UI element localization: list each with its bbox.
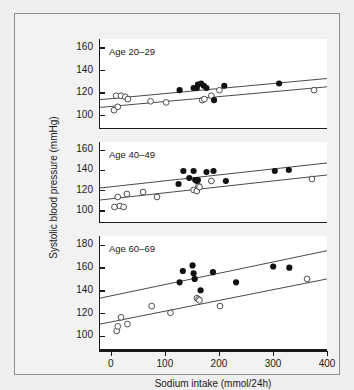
- y-tick-label: 120: [76, 184, 93, 195]
- y-tick-label: 120: [76, 86, 93, 97]
- data-point-open: [124, 191, 130, 197]
- data-point-open: [115, 104, 121, 110]
- data-point-open: [112, 204, 118, 210]
- data-point-open: [118, 314, 124, 320]
- y-tick-label: 140: [76, 64, 93, 75]
- x-tick-label: 200: [211, 358, 228, 369]
- data-point-filled: [177, 87, 183, 93]
- y-tick-label: 140: [76, 163, 93, 174]
- data-point-open: [121, 204, 127, 210]
- x-tick-mark: [219, 351, 220, 356]
- data-point-filled: [191, 270, 197, 276]
- data-point-filled: [233, 279, 239, 285]
- data-point-open: [154, 194, 160, 200]
- data-point-filled: [272, 168, 278, 174]
- data-point-filled: [177, 279, 183, 285]
- data-point-open: [115, 194, 121, 200]
- data-point-filled: [286, 167, 292, 173]
- data-point-open: [115, 324, 121, 330]
- x-tick-mark: [165, 351, 166, 356]
- y-tick-label: 160: [76, 41, 93, 52]
- data-point-filled: [210, 168, 216, 174]
- data-point-open: [309, 176, 315, 182]
- regression-line: [100, 163, 327, 188]
- data-point-filled: [192, 276, 198, 282]
- data-point-filled: [195, 177, 201, 183]
- panel-plot-area: [100, 142, 327, 222]
- y-tick-label: 120: [76, 307, 93, 318]
- data-point-open: [217, 87, 223, 93]
- data-point-filled: [210, 269, 216, 275]
- data-point-open: [208, 178, 214, 184]
- data-point-open: [149, 303, 155, 309]
- panel-plot-area: [100, 39, 327, 128]
- data-point-open: [311, 87, 317, 93]
- data-point-filled: [203, 85, 209, 91]
- data-point-filled: [180, 268, 186, 274]
- data-point-filled: [286, 265, 292, 271]
- data-point-filled: [189, 262, 195, 268]
- data-point-open: [168, 310, 174, 316]
- data-point-filled: [180, 168, 186, 174]
- figure-container: Systolic blood pressure (mmHg) Age 20–29…: [0, 0, 354, 390]
- data-point-filled: [191, 168, 197, 174]
- y-tick-label: 100: [76, 329, 93, 340]
- data-point-open: [197, 184, 203, 190]
- data-point-open: [304, 276, 310, 282]
- x-tick-label: 100: [157, 358, 174, 369]
- figure-frame: Systolic blood pressure (mmHg) Age 20–29…: [14, 13, 340, 375]
- data-point-filled: [270, 263, 276, 269]
- y-tick-label: 140: [76, 284, 93, 295]
- y-tick-label: 160: [76, 143, 93, 154]
- y-axis-title: Systolic blood pressure (mmHg): [48, 73, 59, 303]
- chart-panel: Age 20–29100120140160: [99, 39, 327, 129]
- regression-line: [100, 279, 327, 324]
- y-tick-label: 160: [76, 261, 93, 272]
- chart-panel: Age 60–69100120140160180: [99, 236, 327, 350]
- data-point-filled: [175, 181, 181, 187]
- x-tick-label: 400: [319, 358, 336, 369]
- data-point-open: [125, 321, 131, 327]
- y-tick-label: 100: [76, 204, 93, 215]
- data-point-open: [197, 298, 203, 304]
- data-point-open: [163, 100, 169, 106]
- data-point-filled: [276, 80, 282, 86]
- x-tick-mark: [327, 351, 328, 356]
- data-point-open: [217, 303, 223, 309]
- data-point-open: [125, 96, 131, 102]
- panel-plot-area: [100, 236, 327, 349]
- data-point-filled: [203, 169, 209, 175]
- data-point-open: [201, 96, 207, 102]
- x-tick-label: 0: [108, 358, 114, 369]
- x-axis-title: Sodium intake (mmol/24h): [99, 378, 327, 389]
- data-point-filled: [198, 287, 204, 293]
- chart-panel: Age 40–49100120140160: [99, 142, 327, 223]
- data-point-filled: [211, 97, 217, 103]
- data-point-open: [140, 189, 146, 195]
- x-tick-mark: [273, 351, 274, 356]
- y-tick-label: 180: [76, 238, 93, 249]
- y-tick-label: 100: [76, 109, 93, 120]
- data-point-filled: [221, 83, 227, 89]
- x-tick-label: 300: [265, 358, 282, 369]
- data-point-filled: [223, 178, 229, 184]
- data-point-open: [148, 98, 154, 104]
- x-axis-line: [99, 350, 327, 352]
- x-tick-mark: [111, 351, 112, 356]
- data-point-filled: [186, 175, 192, 181]
